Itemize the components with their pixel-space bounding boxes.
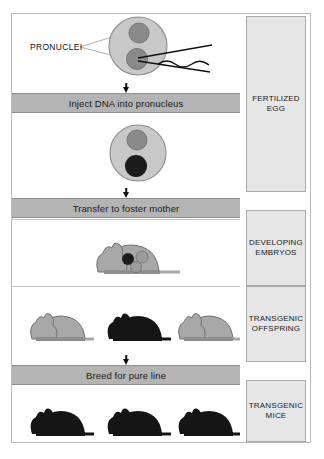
offspring-3 [179, 314, 240, 341]
stage-fertilized-egg-line1: FERTILIZED EGG [247, 94, 305, 114]
process-banner-inject: Inject DNA into pronucleus [12, 93, 240, 113]
process-banner-breed-label: Breed for pure line [86, 370, 166, 381]
pure-mouse-1 [31, 409, 94, 436]
injected-egg-svg [12, 114, 240, 192]
transgenic-mouse-diagram: PRONUCLEI [11, 13, 311, 443]
pure-mouse-3 [179, 409, 240, 436]
process-banner-transfer-label: Transfer to foster mother [73, 203, 180, 214]
stage-developing-embryos: DEVELOPING EMBRYOS [246, 210, 306, 286]
diagram-left-column: PRONUCLEI [12, 14, 240, 442]
diagram-stage-column: FERTILIZED EGG DEVELOPING EMBRYOS TRANSG… [240, 14, 312, 442]
stage-transgenic-mice-line1: TRANSGENIC [249, 401, 303, 411]
stage-transgenic-mice-line2: MICE [266, 411, 287, 421]
egg-cell-svg [12, 14, 240, 91]
pure-mouse-2 [108, 409, 171, 436]
stage-transgenic-offspring: TRANSGENIC OFFSPRING [246, 286, 306, 362]
process-banner-breed: Breed for pure line [12, 365, 240, 385]
stage-developing-embryos-line1: DEVELOPING [249, 238, 303, 248]
upper-pronucleus [127, 130, 147, 150]
foster-mother-illustration [12, 220, 240, 285]
stage-transgenic-offspring-line1: TRANSGENIC [249, 314, 303, 324]
offspring-svg [12, 287, 240, 353]
embryo-normal-1 [136, 251, 148, 263]
pure-line-illustration [12, 386, 240, 444]
stage-fertilized-egg: FERTILIZED EGG [246, 16, 306, 192]
offspring-2-transgenic [108, 314, 171, 341]
offspring-illustration [12, 287, 240, 353]
pure-line-svg [12, 386, 240, 444]
pronuclei-label: PRONUCLEI [30, 42, 82, 52]
injected-egg-illustration [12, 114, 240, 192]
male-pronucleus [129, 23, 149, 43]
offspring-1 [31, 314, 94, 341]
pregnant-foster-mouse [97, 243, 180, 274]
stage-transgenic-mice: TRANSGENIC MICE [246, 380, 306, 442]
dna-strand-icon [158, 61, 209, 67]
foster-mother-svg [12, 220, 240, 285]
lower-pronucleus-transgene [125, 155, 147, 177]
process-banner-inject-label: Inject DNA into pronucleus [69, 98, 184, 109]
stage-transgenic-offspring-line2: OFFSPRING [252, 324, 300, 334]
embryo-normal-2 [131, 262, 142, 273]
stage-developing-embryos-line2: EMBRYOS [255, 248, 296, 258]
fertilized-egg-illustration: PRONUCLEI [12, 14, 240, 91]
female-pronucleus [127, 49, 148, 70]
process-banner-transfer: Transfer to foster mother [12, 198, 240, 218]
